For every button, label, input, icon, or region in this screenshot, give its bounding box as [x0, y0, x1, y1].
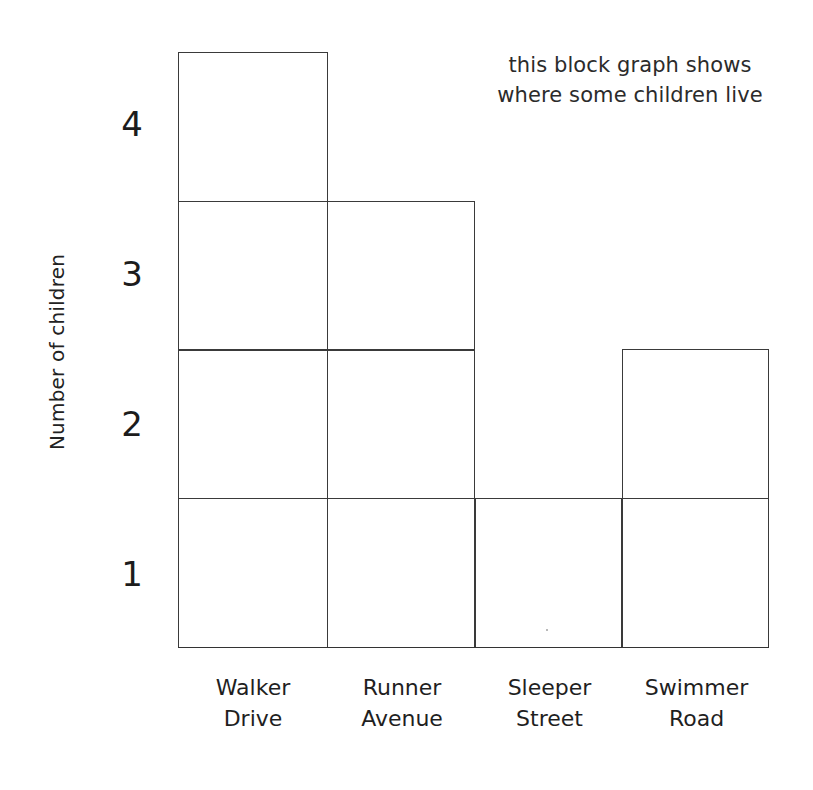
x-tick-line-1: Runner	[328, 672, 476, 703]
y-axis-title: Number of children	[45, 192, 69, 512]
block	[178, 498, 328, 648]
y-tick-label-2: 2	[104, 407, 160, 441]
bar-runner-avenue[interactable]	[328, 202, 476, 648]
y-tick-label-3: 3	[104, 257, 160, 291]
x-tick-line-2: Road	[623, 703, 770, 734]
x-tick-line-2: Avenue	[328, 703, 476, 734]
block	[622, 349, 769, 499]
x-tick-label-runner-avenue: Runner Avenue	[328, 672, 476, 734]
x-tick-line-1: Swimmer	[623, 672, 770, 703]
x-tick-line-1: Walker	[178, 672, 328, 703]
x-tick-label-sleeper-street: Sleeper Street	[476, 672, 623, 734]
block	[475, 498, 622, 648]
bar-swimmer-road[interactable]	[623, 351, 770, 648]
scan-speck	[546, 629, 548, 631]
block	[178, 201, 328, 351]
y-tick-label-1: 1	[104, 557, 160, 591]
block	[178, 349, 328, 499]
x-tick-line-1: Sleeper	[476, 672, 623, 703]
x-tick-line-2: Drive	[178, 703, 328, 734]
block-graph-worksheet: this block graph shows where some childr…	[0, 0, 813, 790]
x-tick-label-swimmer-road: Swimmer Road	[623, 672, 770, 734]
bar-walker-drive[interactable]	[178, 54, 328, 648]
plot-area	[178, 48, 768, 648]
block	[327, 201, 475, 351]
x-tick-label-walker-drive: Walker Drive	[178, 672, 328, 734]
bar-sleeper-street[interactable]	[476, 499, 623, 648]
chart-baseline	[178, 647, 769, 648]
x-tick-line-2: Street	[476, 703, 623, 734]
block	[178, 52, 328, 202]
y-tick-label-4: 4	[104, 107, 160, 141]
block	[622, 498, 769, 648]
block	[327, 498, 475, 648]
block	[327, 349, 475, 499]
